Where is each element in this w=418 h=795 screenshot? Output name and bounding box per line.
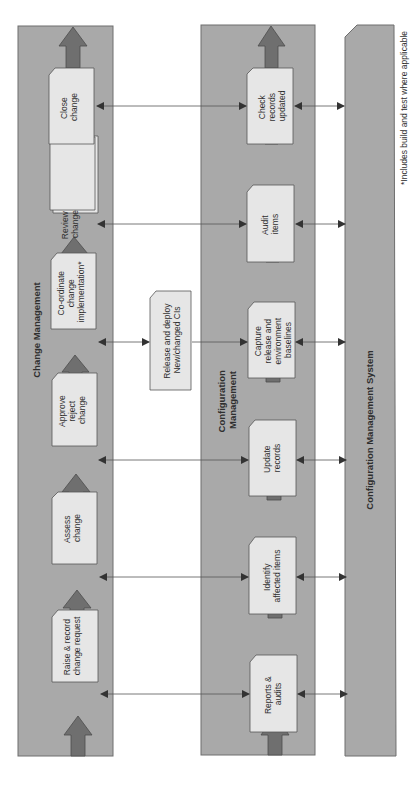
svg-text:Close change: Close change <box>59 93 79 121</box>
svg-text:Assess change: Assess change <box>62 513 82 543</box>
step-label: Raise & record <box>62 619 72 675</box>
configuration-management-title: Configuration Management <box>216 368 238 433</box>
svg-text:Review change: Review change <box>60 209 80 239</box>
cms-bar: Configuration Management System <box>345 25 396 756</box>
svg-text:Update records: Update records <box>262 443 282 473</box>
svg-text:Release and deploy New/c: Release and deploy New/changed CIs <box>162 301 182 379</box>
cms-title: Configuration Management System <box>364 350 375 509</box>
release-deploy-box: Release and deploy New/changed CIs <box>150 291 191 390</box>
svg-text:Check records upda: Check records updated <box>257 90 287 121</box>
configuration-management-lane: Reports & audits Identify affected items… <box>201 25 315 755</box>
footnote: *Includes build and test where applicabl… <box>399 31 409 185</box>
svg-text:Raise & record change re: Raise & record change request <box>62 616 82 675</box>
svg-text:Audit items: Audit items <box>260 213 280 235</box>
change-config-management-diagram: Raise & record change request Assess cha… <box>0 0 418 795</box>
change-management-lane: Raise & record change request Assess cha… <box>18 26 113 756</box>
change-management-title: Change Management <box>31 281 42 377</box>
